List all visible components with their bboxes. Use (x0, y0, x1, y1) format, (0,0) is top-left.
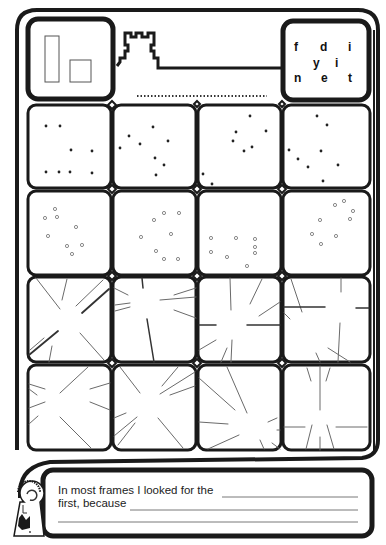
caption-line-2: first, because (58, 497, 358, 510)
grid-cell[interactable] (113, 365, 196, 450)
grid-cell[interactable] (113, 191, 196, 275)
letter: d (320, 40, 327, 54)
grid-cell[interactable] (28, 277, 111, 362)
letter: t (348, 71, 352, 85)
grid-cell[interactable] (198, 105, 281, 188)
letter: i (335, 56, 338, 70)
castle-icon (117, 33, 284, 68)
grid-cell[interactable] (198, 191, 281, 275)
letter: f (294, 40, 298, 54)
grid-cell[interactable] (283, 277, 370, 362)
letter: y (313, 56, 320, 70)
grid-cell[interactable] (113, 277, 196, 362)
grid-cell[interactable] (28, 191, 111, 275)
letter: i (348, 40, 351, 54)
caption-text: In most frames I looked for the first, b… (58, 484, 358, 510)
letter: e (321, 71, 328, 85)
grid-cell[interactable] (198, 277, 281, 362)
shapes-panel (28, 19, 113, 99)
letter-panel-content: f d i y i n e t (288, 40, 364, 90)
grid-cell[interactable] (113, 105, 196, 188)
grid-cell[interactable] (283, 105, 370, 188)
grid-cell[interactable] (28, 105, 111, 188)
caption-line-1: In most frames I looked for the (58, 484, 358, 497)
letter: n (294, 71, 301, 85)
grid-cell[interactable] (198, 365, 281, 450)
grid-cell[interactable] (283, 191, 370, 275)
grid-cell[interactable] (28, 365, 111, 450)
keyhole-logo-icon (14, 481, 44, 536)
